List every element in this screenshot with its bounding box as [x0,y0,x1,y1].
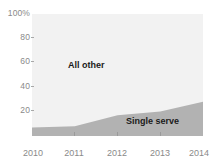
y-tick-100: 100% [0,9,30,18]
y-tick-40: 40 [0,82,30,91]
y-tick-mark-80 [31,37,34,38]
y-tick-mark-40 [31,86,34,87]
y-tick-label-80: 80 [0,33,30,42]
y-tick-80: 80 [0,33,30,42]
x-tick-mark-2011 [74,132,75,136]
y-tick-label-40: 40 [0,82,30,91]
y-tick-label-60: 60 [0,57,30,66]
area-chart: 100% 80 60 40 20 2010 2011 2012 2013 201… [0,0,212,159]
x-tick-mark-2013 [160,132,161,136]
x-tick-label-2013: 2013 [145,148,175,158]
y-tick-20: 20 [0,106,30,115]
x-tick-label-2014: 2014 [184,148,212,158]
y-tick-label-20: 20 [0,106,30,115]
y-tick-mark-20 [31,110,34,111]
y-tick-label-100: 100% [0,9,30,18]
x-tick-label-2010: 2010 [18,148,48,158]
y-tick-60: 60 [0,57,30,66]
series-annotation-all-other: All other [68,60,105,70]
x-tick-label-2012: 2012 [102,148,132,158]
x-tick-label-2011: 2011 [59,148,89,158]
y-tick-mark-60 [31,61,34,62]
series-annotation-single-serve: Single serve [126,116,179,126]
x-tick-mark-2012 [117,132,118,136]
